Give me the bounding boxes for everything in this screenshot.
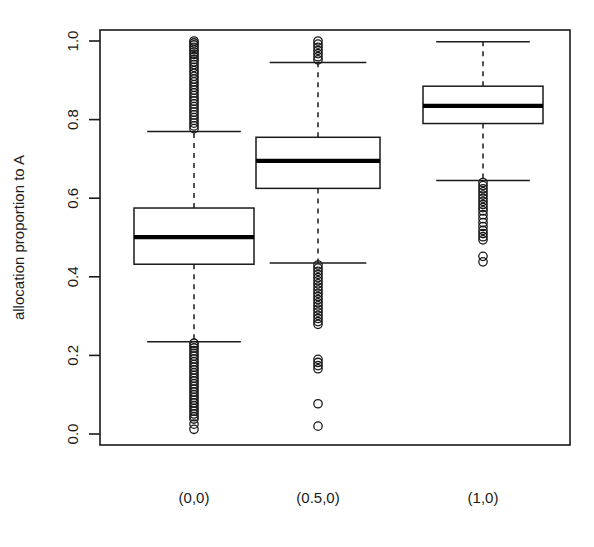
outlier-point [190, 425, 198, 433]
outlier-point [314, 400, 322, 408]
outlier-point [314, 422, 322, 430]
boxplot-canvas: 0.00.20.40.60.81.0allocation proportion … [0, 0, 594, 547]
y-tick-label: 1.0 [64, 31, 81, 52]
y-tick-label: 0.2 [64, 345, 81, 366]
y-axis-title: allocation proportion to A [10, 155, 27, 320]
x-tick-label-1: (0,0) [179, 489, 210, 506]
y-tick-label: 0.6 [64, 188, 81, 209]
y-tick-label: 0.8 [64, 109, 81, 130]
y-tick-label: 0.4 [64, 266, 81, 287]
boxplot-figure: 0.00.20.40.60.81.0allocation proportion … [0, 0, 594, 547]
x-tick-label-3: (1,0) [468, 489, 499, 506]
outlier-point [479, 258, 487, 266]
y-tick-label: 0.0 [64, 424, 81, 445]
x-tick-label-2: (0.5,0) [296, 489, 339, 506]
